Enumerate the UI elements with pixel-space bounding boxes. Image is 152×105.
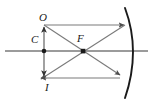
ray-diagram-canvas [0, 0, 152, 105]
center-of-curvature-label: C [31, 34, 38, 45]
point-c-marker [42, 49, 47, 54]
concave-mirror-arc [125, 8, 133, 98]
point-f-marker [81, 49, 86, 54]
object-label: O [39, 12, 47, 23]
image-label: I [45, 82, 49, 93]
focus-label: F [77, 33, 84, 44]
ray-diagram-figure: O C F I [0, 0, 152, 105]
